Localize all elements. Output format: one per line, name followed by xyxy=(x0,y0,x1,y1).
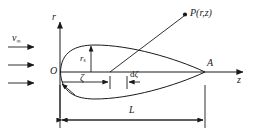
freestream-label: v∞ xyxy=(12,33,21,44)
r-axis-label: r xyxy=(52,12,56,22)
freestream-arrows xyxy=(8,47,34,83)
point-p-dot xyxy=(183,12,187,16)
nose-pointer-arrow xyxy=(62,84,75,95)
tail-point-label: A xyxy=(207,58,213,68)
zeta-dimension xyxy=(62,76,110,89)
radius-label: rs xyxy=(80,54,86,64)
ray-to-point-p xyxy=(110,16,184,72)
figure-container: v∞ r z O P(r,z) A rs ζ dζ L xyxy=(0,0,256,138)
diagram-canvas xyxy=(0,0,256,138)
zeta-label: ζ xyxy=(80,73,84,83)
z-axis-label: z xyxy=(237,75,241,85)
dzeta-label: dζ xyxy=(130,70,138,79)
point-p-label: P(r,z) xyxy=(190,8,212,18)
origin-label: O xyxy=(50,66,57,76)
length-label: L xyxy=(129,105,135,115)
